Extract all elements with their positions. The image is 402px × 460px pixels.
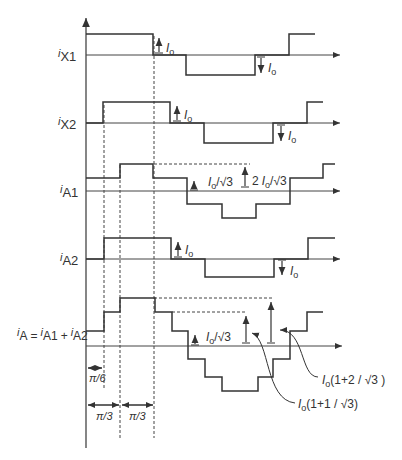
annot-ia2-down: Io [290,264,298,280]
trace-ia1 [86,164,340,218]
label-ia1: iA1 [60,183,78,200]
annot-ia-mid: Io(1+1 / √3) [298,397,358,413]
annot-ix1-down: Io [268,61,276,77]
annot-ia2-up: Io [185,243,193,259]
label-ia2: iA2 [60,251,78,268]
annot-ix2-down: Io [288,129,296,145]
label-ix2: iX2 [58,115,76,132]
label-ix1: iX1 [58,47,76,64]
trace-ia2 [86,238,340,277]
annot-ix2-up: Io [184,108,192,124]
trace-ia [86,298,342,403]
dashed-time-markers [104,36,273,438]
annot-ia-top: Io(1+2 / √3 ) [322,373,385,389]
label-pi6: π/6 [89,372,106,384]
label-pi3-first: π/3 [96,410,113,422]
annot-ix1-up: Io [166,41,174,57]
annot-ia1-large: 2Io/√3 [252,174,287,190]
label-ia-equation: iA=iA1+iA2 [17,326,88,343]
label-pi3-second: π/3 [129,410,146,422]
annot-ia1-small: Io/√3 [208,175,233,191]
trace-ix1 [86,34,340,75]
waveform-diagram: iX1 iX2 iA1 iA2 iA=iA1+iA2 Io Io Io Io I… [0,0,402,460]
annot-ia-small: Io/√3 [206,330,231,346]
trace-ix2 [86,102,340,143]
